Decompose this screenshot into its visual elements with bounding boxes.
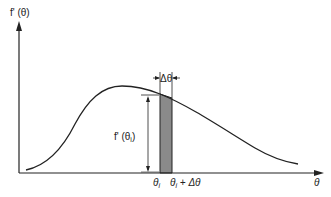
height-arrow-down-icon — [146, 166, 150, 172]
y-axis-arrow-icon — [16, 21, 22, 31]
shaded-strip — [160, 94, 172, 173]
theta-i-label: θi — [153, 177, 160, 189]
delta-right-arrow-icon — [172, 76, 177, 80]
height-label: f' (θi) — [114, 131, 135, 143]
height-label-close: ) — [132, 131, 135, 142]
x-axis-label: θ — [314, 177, 320, 188]
theta-i2-suffix: + Δθ — [177, 177, 201, 188]
height-arrow-up-icon — [146, 96, 150, 102]
x-axis-arrow-icon — [314, 170, 324, 176]
theta-i-plus-delta-label: θi + Δθ — [170, 177, 201, 189]
delta-theta-label: Δθ — [160, 73, 173, 84]
y-axis-label: f' (θ) — [10, 7, 30, 18]
probability-density-diagram: f' (θ) θ f' (θi) Δθ θi θi + Δθ — [0, 0, 331, 197]
height-label-main: f' (θ — [114, 131, 131, 142]
theta-i-sub: i — [158, 182, 160, 189]
